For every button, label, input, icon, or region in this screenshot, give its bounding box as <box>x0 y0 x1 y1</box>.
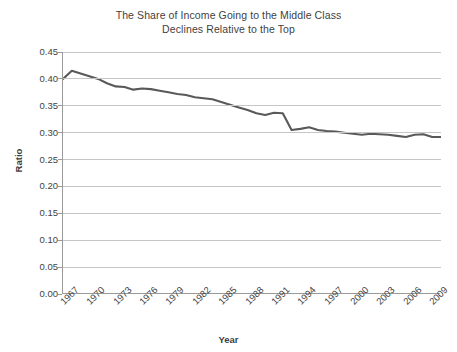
y-axis-tick-mark <box>58 213 62 214</box>
y-axis-tick-label: 0.00 <box>14 289 58 299</box>
gridline <box>63 52 441 53</box>
y-axis-tick-label: 0.30 <box>14 128 58 138</box>
y-axis-tick-label: 0.40 <box>14 74 58 84</box>
y-axis-tick-label: 0.10 <box>14 235 58 245</box>
plot-area <box>62 52 440 294</box>
y-axis-tick-mark <box>58 52 62 53</box>
y-axis-tick-mark <box>58 240 62 241</box>
x-axis-title: Year <box>0 334 457 345</box>
gridline <box>63 213 441 214</box>
gridline <box>63 159 441 160</box>
gridline <box>63 132 441 133</box>
gridline <box>63 186 441 187</box>
gridline <box>63 105 441 106</box>
gridline <box>63 267 441 268</box>
y-axis-tick-label: 0.35 <box>14 101 58 111</box>
y-axis-tick-labels: 0.000.050.100.150.200.250.300.350.400.45 <box>9 0 58 352</box>
gridline <box>63 78 441 79</box>
y-axis-tick-mark <box>58 159 62 160</box>
y-axis-tick-mark <box>58 294 62 295</box>
y-axis-tick-mark <box>58 186 62 187</box>
gridline <box>63 240 441 241</box>
y-axis-tick-mark <box>58 132 62 133</box>
series-line-ratio <box>63 52 441 294</box>
chart-title-line-1: The Share of Income Going to the Middle … <box>0 8 457 22</box>
chart-title: The Share of Income Going to the Middle … <box>0 8 457 36</box>
chart-title-line-2: Declines Relative to the Top <box>0 22 457 36</box>
chart-container: The Share of Income Going to the Middle … <box>0 0 457 352</box>
y-axis-tick-label: 0.25 <box>14 155 58 165</box>
y-axis-tick-mark <box>58 105 62 106</box>
y-axis-tick-label: 0.20 <box>14 181 58 191</box>
y-axis-tick-label: 0.05 <box>14 262 58 272</box>
y-axis-tick-label: 0.45 <box>14 47 58 57</box>
y-axis-tick-mark <box>58 78 62 79</box>
y-axis-tick-label: 0.15 <box>14 208 58 218</box>
y-axis-tick-mark <box>58 267 62 268</box>
